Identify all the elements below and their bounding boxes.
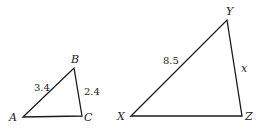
side-label-xy: 8.5 [163,55,179,66]
triangle-abc: A B C 3.4 2.4 [8,53,100,124]
side-label-bc: 2.4 [84,86,100,97]
triangle-abc-shape [23,68,82,117]
side-label-yz: x [241,62,248,75]
vertex-label-x: X [116,110,126,123]
triangle-xyz: X Y Z 8.5 x [116,5,253,123]
similar-triangles-diagram: A B C 3.4 2.4 X Y Z 8.5 x [0,0,264,129]
vertex-label-b: B [70,53,79,66]
vertex-label-z: Z [244,110,253,123]
vertex-label-y: Y [226,5,235,18]
side-label-ab: 3.4 [34,82,50,93]
triangle-xyz-shape [131,20,242,116]
vertex-label-c: C [84,111,93,124]
vertex-label-a: A [8,111,17,124]
